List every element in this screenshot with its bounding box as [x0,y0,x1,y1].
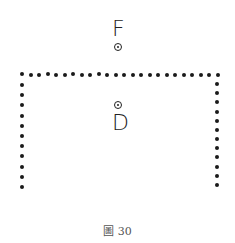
right-side-dot [215,155,219,159]
left-side-dot [20,154,24,158]
label-f: F [112,18,125,40]
top-edge-dot [207,73,211,77]
right-side-dot [215,174,219,178]
caption-prefix: 圖 [103,225,114,238]
circle-marker-d [114,101,122,109]
right-side-dot [215,128,219,132]
left-side-dot [20,165,24,169]
left-side-dot [20,134,24,138]
top-edge-dot [131,73,135,77]
top-edge-dot [29,73,33,77]
label-d: D [112,112,129,134]
left-side-dot [20,114,24,118]
left-side-dot [20,103,24,107]
top-edge-dot [182,73,186,77]
caption-number: 30 [118,225,132,238]
top-edge-dot [71,72,75,76]
top-edge-dot [46,72,50,76]
right-side-dot [215,110,219,114]
right-side-dot [215,119,219,123]
top-edge-dot [37,73,41,77]
left-side-dot [20,185,24,189]
top-edge-dot [139,73,143,77]
left-side-dot [20,83,24,87]
top-edge-dot [80,73,84,77]
top-edge-dot [20,72,24,76]
right-side-dot [215,165,219,169]
top-edge-dot [97,72,101,76]
top-edge-dot [190,73,194,77]
left-side-dot [20,144,24,148]
top-edge-dot [122,73,126,77]
left-side-dot [20,175,24,179]
top-edge-dot [105,73,109,77]
top-edge-dot [165,73,169,77]
right-side-dot [215,137,219,141]
top-edge-dot [88,73,92,77]
right-side-dot [215,146,219,150]
figure-caption: 圖 30 [0,222,235,238]
left-side-dot [20,124,24,128]
top-edge-dot [63,73,67,77]
circle-marker-f [114,43,122,51]
left-side-dot [20,93,24,97]
top-edge-dot [156,73,160,77]
right-side-dot [215,100,219,104]
top-edge-dot [148,73,152,77]
top-edge-dot [54,73,58,77]
top-edge-dot [216,73,220,77]
top-edge-dot [199,73,203,77]
right-side-dot [215,91,219,95]
right-side-dot [215,82,219,86]
top-edge-dot [114,73,118,77]
top-edge-dot [173,73,177,77]
right-side-dot [215,183,219,187]
